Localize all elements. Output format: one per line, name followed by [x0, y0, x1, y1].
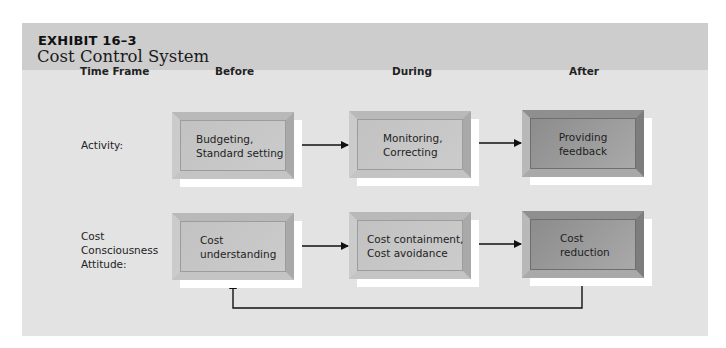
- box-text-line: Cost: [560, 231, 610, 245]
- box-text: Cost understanding: [200, 233, 276, 261]
- box-text: Monitoring, Correcting: [383, 131, 443, 159]
- box-text-line: Budgeting,: [196, 132, 284, 146]
- box-text: Budgeting, Standard setting: [196, 132, 284, 160]
- box-activity-before: Budgeting, Standard setting: [172, 112, 294, 179]
- box-activity-during: Monitoring, Correcting: [349, 111, 471, 178]
- box-text-line: feedback: [530, 144, 636, 158]
- box-text: Cost reduction: [560, 231, 610, 259]
- box-activity-after: Providing feedback: [522, 110, 644, 177]
- box-text-line: Monitoring,: [383, 131, 443, 145]
- box-text-line: Standard setting: [196, 146, 284, 160]
- box-text-line: Providing: [530, 130, 636, 144]
- box-text-line: Cost containment,: [367, 232, 463, 246]
- box-attitude-after: Cost reduction: [522, 211, 644, 278]
- box-text-line: reduction: [560, 245, 610, 259]
- box-text: Cost containment, Cost avoidance: [367, 232, 463, 260]
- box-text-line: understanding: [200, 247, 276, 261]
- box-text: Providing feedback: [530, 130, 636, 158]
- box-text-line: Correcting: [383, 145, 443, 159]
- box-text-line: Cost avoidance: [367, 246, 463, 260]
- box-attitude-before: Cost understanding: [172, 213, 294, 280]
- box-text-line: Cost: [200, 233, 276, 247]
- box-attitude-during: Cost containment, Cost avoidance: [349, 212, 471, 279]
